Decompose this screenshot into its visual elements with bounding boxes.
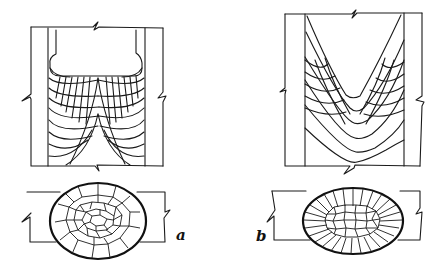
panel-a-longitudinal — [22, 22, 166, 171]
pool-boundary-a — [50, 30, 142, 76]
break-line-top-a — [31, 22, 163, 30]
panel-a-cross-section: a — [22, 183, 186, 259]
panel-b-longitudinal — [280, 10, 424, 174]
diagram-canvas: a b — [0, 0, 446, 266]
v-arcs-b — [305, 15, 404, 162]
grain-lines-left-a — [49, 68, 99, 156]
equiaxed-core-b — [325, 205, 380, 237]
panel-label-a: a — [176, 226, 186, 244]
frame-left-bottom-a — [22, 27, 163, 171]
frame-right-b — [416, 13, 424, 166]
radial-strands-a — [56, 76, 138, 165]
cross-arcs-right-b — [360, 58, 404, 124]
panel-label-b: b — [256, 227, 267, 245]
equiaxed-cells-a — [55, 183, 140, 258]
frame-right-a — [158, 28, 166, 166]
panel-b-cross-section: b — [256, 188, 422, 254]
